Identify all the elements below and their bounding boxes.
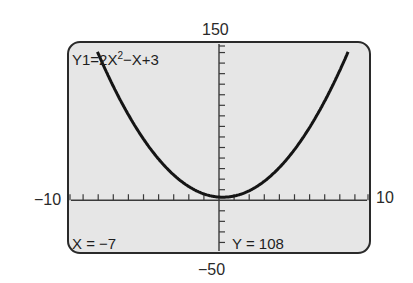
trace-x-value: X = −7 [72,236,116,251]
ymin-label: −50 [198,262,225,278]
xmin-label: −10 [34,192,61,208]
equation-label: Y1=2X2−X+3 [72,48,159,67]
trace-y-value: Y = 108 [232,236,284,251]
ymax-label: 150 [202,22,229,38]
graph-screen [0,0,413,283]
xmax-label: 10 [376,190,394,206]
